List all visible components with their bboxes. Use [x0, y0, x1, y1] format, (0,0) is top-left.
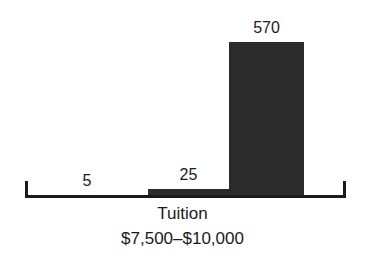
x-axis-title: Tuition $7,500–$10,000: [0, 202, 365, 251]
bar-value-label-1: 5: [26, 173, 148, 189]
x-axis-title-line-2: $7,500–$10,000: [0, 227, 365, 252]
bar-3: [229, 42, 304, 197]
bar-value-label-2: 25: [148, 167, 229, 183]
x-axis-title-line-1: Tuition: [0, 202, 365, 227]
plot-area: 5 25 570: [0, 0, 365, 197]
bar-chart: 5 25 570 Tuition $7,500–$10,000: [0, 0, 365, 258]
x-axis-line: [25, 195, 346, 198]
x-axis-tick-right: [343, 181, 346, 198]
bar-value-label-3: 570: [229, 20, 304, 36]
x-axis-tick-left: [25, 181, 28, 198]
